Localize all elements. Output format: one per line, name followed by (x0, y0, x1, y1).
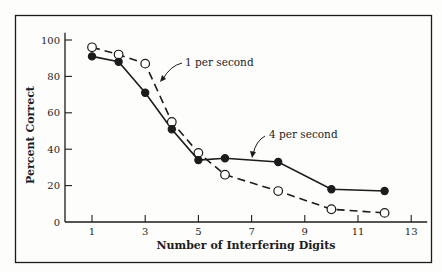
filled-circle-marker (142, 89, 149, 96)
arrow-icon (163, 63, 182, 79)
y-tick-label: 100 (41, 35, 60, 46)
filled-circle-marker (168, 126, 175, 133)
x-tick-label: 11 (352, 226, 365, 237)
filled-circle-marker (275, 158, 282, 165)
y-tick-label: 60 (47, 107, 60, 118)
y-tick-label: 20 (47, 180, 60, 191)
filled-circle-marker (381, 187, 388, 194)
x-tick-label: 9 (302, 226, 308, 237)
annotation-1-per-second: 1 per second (160, 56, 254, 82)
open-circle-marker (274, 187, 283, 196)
series-layer (88, 43, 389, 217)
open-circle-marker (114, 50, 123, 59)
series-line-1 (92, 47, 385, 213)
y-tick-label: 40 (47, 144, 60, 155)
x-tick-label: 1 (89, 226, 95, 237)
x-tick-label: 3 (142, 226, 148, 237)
filled-circle-marker (88, 53, 95, 60)
open-circle-marker (221, 170, 230, 179)
y-tick-label: 80 (47, 71, 60, 82)
arrowhead-icon (250, 151, 256, 158)
open-circle-marker (88, 43, 97, 52)
open-circle-marker (168, 118, 177, 127)
x-tick-label: 13 (405, 226, 418, 237)
chart: 020406080100135791113 Percent Correct Nu… (0, 0, 442, 272)
x-tick-label: 7 (248, 226, 254, 237)
open-circle-marker (141, 59, 150, 68)
filled-circle-marker (115, 58, 122, 65)
open-circle-marker (327, 205, 336, 214)
series-line-2 (92, 56, 385, 191)
filled-circle-marker (221, 155, 228, 162)
open-circle-marker (380, 209, 389, 218)
annotation-label: 4 per second (269, 128, 338, 140)
x-tick-label: 5 (195, 226, 201, 237)
filled-circle-marker (195, 157, 202, 164)
x-axis-title: Number of Interfering Digits (156, 239, 335, 252)
annotation-4-per-second: 4 per second (250, 128, 338, 158)
annotation-label: 1 per second (185, 56, 254, 68)
open-circle-marker (194, 149, 203, 158)
y-tick-label: 0 (54, 217, 60, 228)
y-axis-title: Percent Correct (24, 85, 37, 184)
arrow-icon (253, 136, 265, 154)
chart-frame (16, 16, 432, 263)
filled-circle-marker (328, 186, 335, 193)
